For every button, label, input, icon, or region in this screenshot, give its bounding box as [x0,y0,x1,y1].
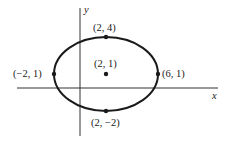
left-vertex-label: (−2, 1) [13,69,42,80]
center-point [104,72,108,76]
x-axis-label: x [212,91,217,102]
right-vertex-point [156,72,160,76]
left-vertex-point [52,72,56,76]
y-axis-label: y [84,5,89,16]
center-label: (2, 1) [94,59,117,70]
top-vertex-label: (2, 4) [93,23,116,34]
bottom-vertex-label: (2, −2) [91,118,120,129]
bottom-vertex-point [104,109,108,113]
right-vertex-label: (6, 1) [162,69,185,80]
top-vertex-point [104,35,108,39]
